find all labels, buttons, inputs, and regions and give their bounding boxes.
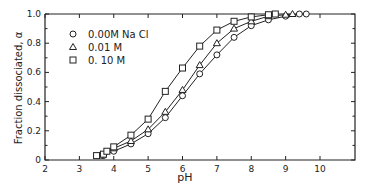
legend-label: 0.01 M bbox=[88, 42, 122, 53]
square-marker bbox=[162, 88, 168, 94]
circle-marker bbox=[180, 93, 186, 99]
circle-marker bbox=[70, 31, 76, 37]
y-tick-label: 0.6 bbox=[27, 67, 42, 77]
circle-marker bbox=[231, 34, 237, 40]
y-tick-label: 1.0 bbox=[27, 9, 42, 19]
triangle-marker bbox=[179, 86, 186, 92]
x-tick-label: 7 bbox=[214, 164, 220, 174]
square-marker bbox=[272, 11, 278, 17]
circle-marker bbox=[296, 11, 302, 17]
circle-marker bbox=[214, 52, 220, 58]
circle-marker bbox=[162, 115, 168, 121]
y-axis-label: Fraction dissociated, α bbox=[13, 31, 24, 144]
titration-chart: 234567891000.20.40.60.81.0 0.00M Na Cl0.… bbox=[0, 0, 368, 187]
x-tick-label: 2 bbox=[42, 164, 48, 174]
triangle-marker bbox=[70, 44, 77, 50]
legend-label: 0. 10 M bbox=[88, 55, 125, 66]
square-marker bbox=[128, 132, 134, 138]
square-marker bbox=[265, 12, 271, 18]
y-tick-label: 0.4 bbox=[27, 97, 42, 107]
legend-item: 0. 10 M bbox=[70, 55, 125, 66]
x-axis-label: pH bbox=[177, 171, 192, 184]
y-tick-label: 0.8 bbox=[27, 38, 42, 48]
x-tick-label: 3 bbox=[77, 164, 83, 174]
legend-label: 0.00M Na Cl bbox=[88, 29, 149, 40]
x-tick-label: 10 bbox=[314, 164, 326, 174]
square-marker bbox=[180, 65, 186, 71]
square-marker bbox=[248, 14, 254, 20]
y-tick-label: 0 bbox=[35, 155, 41, 165]
square-marker bbox=[70, 57, 76, 63]
x-tick-label: 5 bbox=[145, 164, 151, 174]
legend: 0.00M Na Cl0.01 M0. 10 M bbox=[70, 29, 149, 66]
square-marker bbox=[145, 116, 151, 122]
legend-item: 0.00M Na Cl bbox=[70, 29, 149, 40]
circle-marker bbox=[303, 11, 309, 17]
x-tick-label: 4 bbox=[111, 164, 117, 174]
circle-marker bbox=[197, 71, 203, 77]
legend-item: 0.01 M bbox=[70, 42, 123, 53]
square-marker bbox=[104, 148, 110, 154]
chart-canvas: 234567891000.20.40.60.81.0 0.00M Na Cl0.… bbox=[0, 0, 368, 187]
x-tick-label: 9 bbox=[283, 164, 289, 174]
square-marker bbox=[197, 43, 203, 49]
square-marker bbox=[214, 27, 220, 33]
x-tick-label: 8 bbox=[248, 164, 254, 174]
square-marker bbox=[94, 153, 100, 159]
y-tick-label: 0.2 bbox=[27, 126, 41, 136]
square-marker bbox=[231, 18, 237, 24]
square-marker bbox=[111, 144, 117, 150]
